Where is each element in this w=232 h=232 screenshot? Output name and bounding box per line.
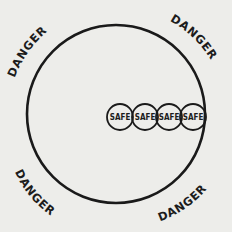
safe-label: SAFE	[183, 113, 204, 122]
safe-circle: SAFE	[156, 104, 182, 130]
safe-label: SAFE	[110, 113, 131, 122]
danger-safe-diagram: SAFE SAFE SAFE SAFE DANGER DANGER DANGER…	[0, 0, 232, 232]
diagram-canvas: SAFE SAFE SAFE SAFE DANGER DANGER DANGER…	[0, 0, 232, 232]
safe-circle: SAFE	[180, 104, 206, 130]
safe-circle: SAFE	[132, 104, 158, 130]
danger-label-top-right: DANGER	[168, 11, 220, 62]
safe-circle: SAFE	[107, 104, 133, 130]
safe-label: SAFE	[135, 113, 156, 122]
danger-label-top-left: DANGER	[4, 23, 49, 79]
safe-label: SAFE	[159, 113, 180, 122]
